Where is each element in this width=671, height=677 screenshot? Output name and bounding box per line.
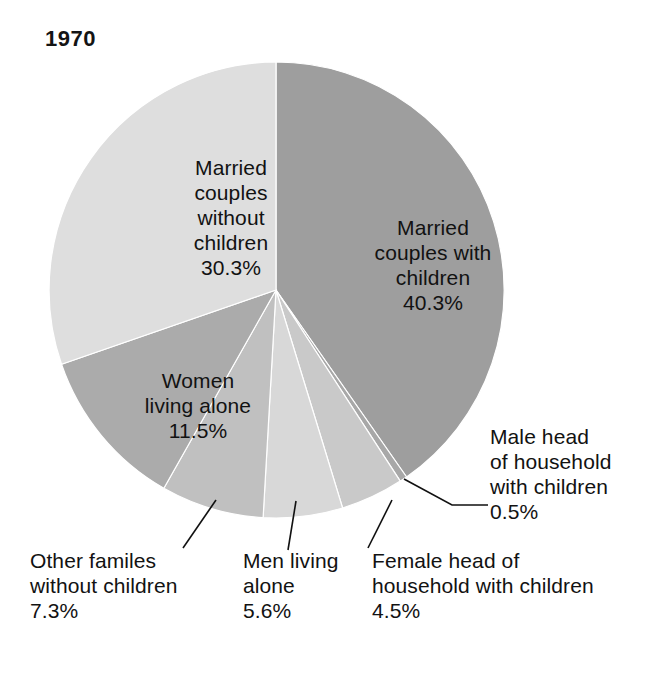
- pie-chart-figure: 1970 Married co: [0, 0, 671, 677]
- slice-label-other-familes-without-children: Other familes without children 7.3%: [30, 548, 250, 623]
- leader-line-other-familes: [183, 500, 216, 548]
- slice-label-married-couples-with-children: Married couples with children 40.3%: [333, 215, 533, 315]
- slice-label-female-head-of-household: Female head of household with children 4…: [372, 548, 622, 623]
- slice-label-men-living-alone: Men living alone 5.6%: [243, 548, 373, 623]
- slice-label-women-living-alone: Women living alone 11.5%: [100, 368, 296, 443]
- leader-line-male-head-of-household: [404, 479, 488, 505]
- slice-label-married-couples-without-children: Married couples without children 30.3%: [138, 155, 324, 280]
- leader-line-female-head-of-household: [368, 500, 392, 548]
- slice-label-male-head-of-household: Male head of household with children 0.5…: [490, 424, 665, 524]
